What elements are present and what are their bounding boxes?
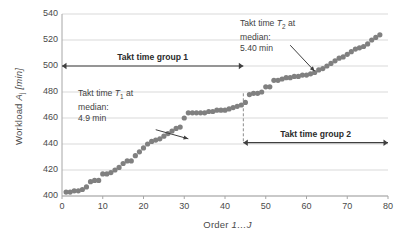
annotation-takt-1-prefix: Takt time xyxy=(78,88,115,98)
span-arrow-left-group-2 xyxy=(243,140,248,146)
data-point xyxy=(178,125,183,130)
annotation-takt-1-line-1: Takt time T1 at xyxy=(78,88,133,102)
data-point xyxy=(259,89,264,94)
annotation-takt-2-line-1: Takt time T2 at xyxy=(240,18,295,32)
data-point xyxy=(96,178,101,183)
data-point xyxy=(129,158,134,163)
data-point xyxy=(84,184,89,189)
span-arrow-right-group-1 xyxy=(239,63,244,69)
annotation-takt-time-2: Takt time T2 at median: 5.40 min xyxy=(240,18,295,54)
data-point xyxy=(267,84,272,89)
data-point xyxy=(116,165,121,170)
annotation-takt-time-1: Takt time T1 at median: 4.9 min xyxy=(78,88,133,124)
span-label-group-2: Takt time group 2 xyxy=(256,129,376,139)
data-point xyxy=(137,149,142,154)
annotation-takt-2-prefix: Takt time xyxy=(240,18,277,28)
data-point xyxy=(365,41,370,46)
span-label-group-1: Takt time group 1 xyxy=(93,52,213,62)
data-point xyxy=(141,145,146,150)
data-point xyxy=(377,32,382,37)
annotation-takt-1-line-2: median: xyxy=(78,102,133,113)
annotation-takt-1-line-3: 4.9 min xyxy=(78,113,133,124)
data-point xyxy=(133,153,138,158)
span-arrow-left-group-1 xyxy=(62,63,67,69)
span-arrow-right-group-2 xyxy=(384,140,389,146)
annotation-takt-2-suffix: at xyxy=(286,18,296,28)
annotation-takt-2-line-3: 5.40 min xyxy=(240,43,295,54)
annotation-takt-2-line-2: median: xyxy=(240,32,295,43)
annotation-takt-1-suffix: at xyxy=(124,88,134,98)
data-point xyxy=(182,115,187,120)
